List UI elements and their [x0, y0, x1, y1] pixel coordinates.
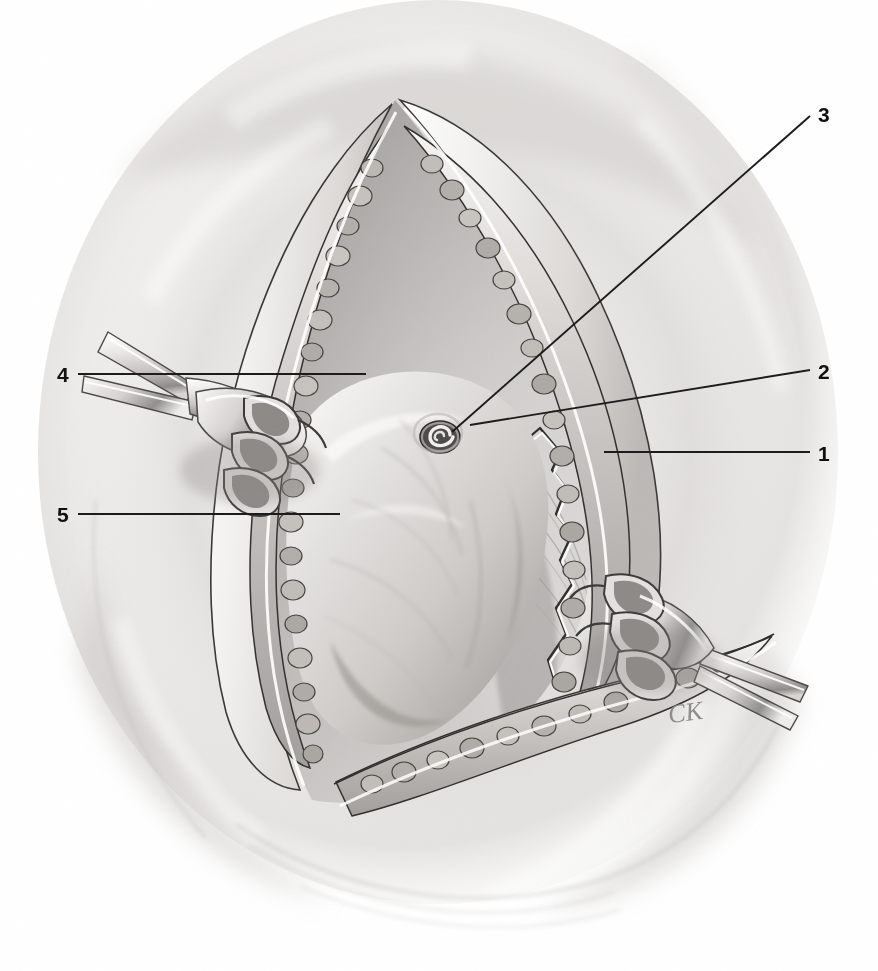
paper-grain	[0, 0, 878, 971]
label-2: 2	[818, 361, 830, 382]
surgical-illustration	[0, 0, 878, 971]
illustration-canvas: 1 2 3 4 5 CK	[0, 0, 878, 971]
label-4: 4	[57, 364, 69, 385]
label-3: 3	[818, 104, 830, 125]
label-1: 1	[818, 443, 830, 464]
artist-signature: CK	[666, 696, 705, 731]
label-5: 5	[57, 504, 69, 525]
